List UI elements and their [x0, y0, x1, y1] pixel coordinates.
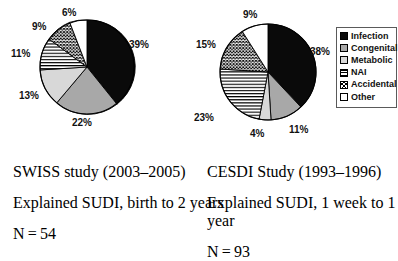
legend-label-accidental: Accidental — [351, 79, 397, 90]
pie-label-cesdi-congenital: 11% — [289, 124, 309, 135]
legend-label-congenital: Congenital — [351, 43, 398, 54]
pie-label-swiss-congenital: 22% — [72, 117, 92, 128]
legend-item-infection[interactable]: Infection — [340, 30, 393, 42]
legend-label-infection: Infection — [351, 31, 389, 42]
pie-label-swiss-other: 6% — [62, 7, 77, 18]
pie-chart-swiss — [40, 20, 135, 114]
legend-label-metabolic: Metabolic — [351, 55, 393, 66]
legend-swatch-infection-icon — [340, 32, 348, 40]
pie-label-cesdi-metabolic: 4% — [250, 128, 265, 139]
legend-swatch-congenital-icon — [340, 44, 348, 52]
legend-swatch-accidental-icon — [340, 81, 348, 89]
legend-item-other[interactable]: Other — [340, 91, 393, 103]
caption-swiss: SWISS study (2003–2005) Explained SUDI, … — [13, 163, 224, 256]
legend-item-congenital[interactable]: Congenital — [340, 42, 393, 54]
pie-label-cesdi-nai: 23% — [194, 112, 214, 123]
caption-cesdi: CESDI Study (1993–1996) Explained SUDI, … — [207, 163, 398, 261]
pie-label-swiss-metabolic: 13% — [19, 90, 39, 101]
pie-label-swiss-infection: 39% — [129, 39, 149, 50]
legend-swatch-other-icon — [340, 93, 348, 101]
legend-item-nai[interactable]: NAI — [340, 67, 393, 79]
caption-swiss-title: SWISS study (2003–2005) — [13, 163, 224, 181]
pie-label-cesdi-accidental: 15% — [196, 39, 216, 50]
pie-label-cesdi-infection: 38% — [310, 46, 330, 57]
caption-cesdi-n: N = 93 — [207, 243, 398, 261]
caption-cesdi-title: CESDI Study (1993–1996) — [207, 163, 398, 181]
pie-label-swiss-nai: 11% — [11, 48, 31, 59]
caption-cesdi-subtitle: Explained SUDI, 1 week to 1 year — [207, 194, 398, 230]
pie-label-swiss-accidental: 9% — [32, 21, 47, 32]
legend-item-metabolic[interactable]: Metabolic — [340, 54, 393, 66]
legend-label-other: Other — [351, 92, 375, 103]
pie-slice-cesdi-nai — [220, 69, 268, 119]
legend-label-nai: NAI — [351, 67, 367, 78]
caption-swiss-subtitle: Explained SUDI, birth to 2 years — [13, 194, 224, 212]
caption-swiss-n: N = 54 — [13, 225, 224, 243]
legend: Infection Congenital Metabolic NAI Accid… — [336, 27, 397, 108]
legend-item-accidental[interactable]: Accidental — [340, 79, 393, 91]
pie-label-cesdi-other: 9% — [243, 9, 258, 20]
legend-swatch-nai-icon — [340, 69, 348, 77]
pie-chart-cesdi — [220, 24, 316, 120]
legend-swatch-metabolic-icon — [340, 56, 348, 64]
